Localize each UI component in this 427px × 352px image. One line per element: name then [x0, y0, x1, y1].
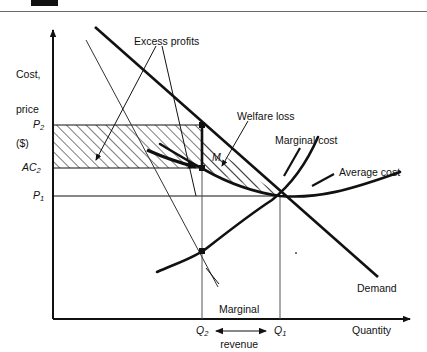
curve-label-marginal-revenue-line-1: Marginal: [219, 304, 259, 316]
stray-speck: [295, 252, 297, 254]
leader-average-cost: [312, 174, 334, 186]
leader-marginal-revenue: [206, 268, 219, 284]
y-tick-ac2: AC2: [22, 162, 41, 177]
point-monopoly-price: [199, 122, 205, 128]
curve-label-marginal-cost: Marginal cost: [275, 135, 337, 147]
y-tick-p2: P2: [33, 119, 44, 134]
curve-label-average-cost: Average cost: [339, 167, 400, 179]
annotation-welfare-region-m: M: [212, 152, 221, 164]
x-axis-label: Quantity: [352, 325, 391, 337]
point-monopoly-avgcost: [199, 165, 205, 171]
curve-label-marginal-revenue-line-2: revenue: [219, 339, 259, 351]
curve-label-marginal-revenue: Marginal revenue: [219, 281, 259, 352]
y-axis-label-line-1: Cost,: [16, 69, 41, 81]
leader-excess-profits-right: [162, 46, 196, 196]
point-mr-mc-intersection: [199, 248, 205, 254]
x-tick-q1: Q1: [274, 325, 286, 340]
y-axis-label: Cost, price ($): [16, 46, 41, 161]
y-axis-label-line-3: ($): [16, 138, 41, 150]
curve-label-demand: Demand: [357, 283, 397, 295]
annotation-welfare-loss: Welfare loss: [237, 111, 295, 123]
x-tick-q2: Q2: [196, 325, 208, 340]
annotation-excess-profits: Excess profits: [134, 36, 199, 48]
y-axis-label-line-2: price: [16, 104, 41, 116]
y-tick-p1: P1: [33, 190, 44, 205]
